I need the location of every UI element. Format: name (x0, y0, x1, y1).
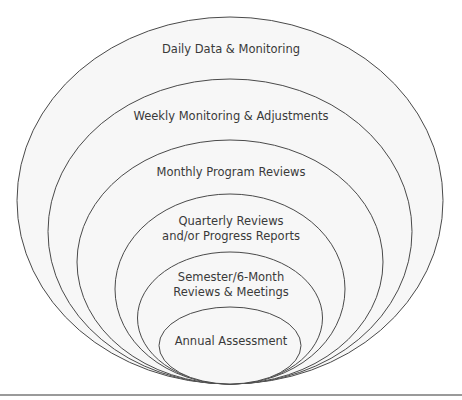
label-monthly: Monthly Program Reviews (0, 165, 462, 180)
nested-ellipse-diagram: Daily Data & Monitoring Weekly Monitorin… (0, 0, 462, 400)
bottom-divider (0, 394, 462, 396)
label-semester: Semester/6-Month Reviews & Meetings (0, 270, 462, 300)
label-annual: Annual Assessment (0, 334, 462, 349)
label-daily: Daily Data & Monitoring (0, 42, 462, 57)
label-quarterly: Quarterly Reviews and/or Progress Report… (0, 214, 462, 244)
label-weekly: Weekly Monitoring & Adjustments (0, 109, 462, 124)
